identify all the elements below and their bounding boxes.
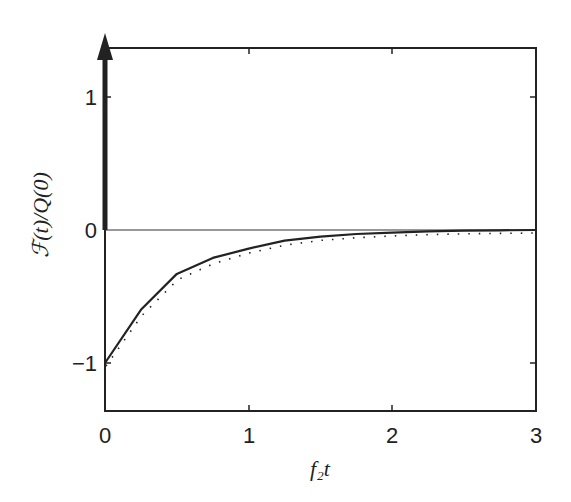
chart: 0 1 2 3 −1 0 1 f₂t ℱ(t)/Q(0): [0, 0, 571, 502]
solid-curve: [105, 230, 536, 363]
x-tick-label: 3: [530, 423, 542, 448]
y-axis-label: ℱ(t)/Q(0): [28, 172, 53, 257]
dotted-curve: [106, 233, 537, 366]
y-tick-label: 0: [85, 218, 97, 243]
y-tick-label: 1: [85, 85, 97, 110]
x-tick-label: 1: [243, 423, 255, 448]
delta-arrow: [97, 33, 113, 230]
x-tick-labels: 0 1 2 3: [99, 423, 542, 448]
x-tick-label: 0: [99, 423, 111, 448]
series-layer: [105, 230, 537, 366]
y-tick-labels: −1 0 1: [72, 85, 97, 376]
x-axis-label: f₂t: [310, 456, 331, 481]
y-tick-label: −1: [72, 351, 97, 376]
x-tick-label: 2: [386, 423, 398, 448]
